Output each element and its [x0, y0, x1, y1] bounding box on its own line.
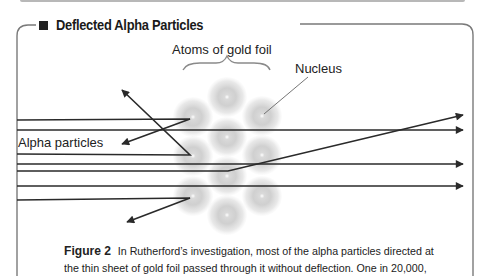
- brace-icon: [183, 56, 270, 70]
- caption-line-1: In Rutherford’s investigation, most of t…: [118, 245, 434, 257]
- section-header: Deflected Alpha Particles: [36, 16, 220, 34]
- figure-label: Figure 2: [64, 243, 111, 258]
- section-title: Deflected Alpha Particles: [56, 17, 203, 33]
- black-square-icon: [39, 21, 48, 30]
- atoms-label: Atoms of gold foil: [172, 42, 272, 57]
- nucleus-label: Nucleus: [295, 61, 342, 76]
- gold-atoms: [173, 77, 282, 235]
- nucleus-pointer: [264, 77, 308, 114]
- alpha-particles-label: Alpha particles: [18, 135, 103, 150]
- caption-line-2: the thin sheet of gold foil passed throu…: [64, 260, 455, 276]
- path-reflected-bottom: [17, 198, 190, 222]
- figure-caption: Figure 2 In Rutherford’s investigation, …: [64, 242, 455, 276]
